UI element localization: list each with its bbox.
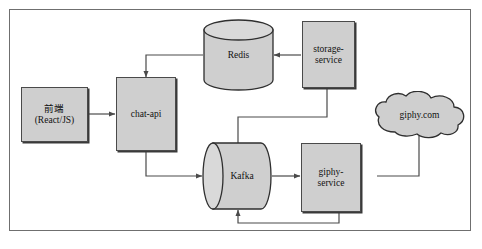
node-giphy-com[interactable]: giphy.com	[371, 91, 468, 139]
node-chat-api[interactable]: chat-api	[116, 77, 176, 151]
node-redis[interactable]: Redis	[203, 19, 274, 91]
node-frontend[interactable]: 前端 (React/JS)	[21, 87, 88, 142]
node-kafka[interactable]: Kafka	[202, 142, 272, 210]
node-kafka-label: Kafka	[220, 171, 253, 182]
node-chat-api-label: chat-api	[129, 109, 164, 120]
node-giphy-com-label: giphy.com	[400, 110, 440, 121]
architecture-diagram: 前端 (React/JS) chat-api Redis storage- se…	[0, 0, 482, 249]
node-giphy-service-label: giphy- service	[316, 167, 347, 188]
node-storage-service-label: storage- service	[311, 44, 346, 65]
node-giphy-service[interactable]: giphy- service	[301, 143, 361, 212]
node-frontend-label: 前端 (React/JS)	[33, 104, 77, 125]
node-storage-service[interactable]: storage- service	[302, 21, 355, 88]
node-redis-label: Redis	[228, 50, 250, 61]
